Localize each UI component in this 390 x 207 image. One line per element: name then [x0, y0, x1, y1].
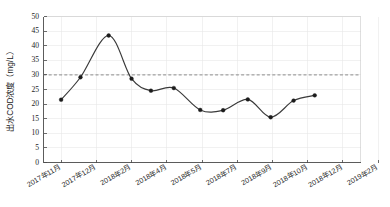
- data-point-marker: 17.9: [221, 108, 225, 112]
- y-axis-title-text: 出水COD浓度（mg/L）: [5, 47, 15, 131]
- y-tick-label: 5: [35, 143, 39, 152]
- data-point-marker: 28.7: [130, 77, 134, 81]
- y-tick-label: 50: [31, 12, 39, 21]
- data-point-marker: 43.5: [107, 34, 111, 38]
- data-point-marker: 21.5: [59, 98, 63, 102]
- y-tick-label: 45: [31, 26, 39, 35]
- line-chart: 21.529.243.528.724.625.51817.921.615.521…: [0, 0, 390, 207]
- y-tick-label: 10: [31, 128, 39, 137]
- y-tick-label: 0: [35, 158, 39, 167]
- data-point-marker: 18: [198, 108, 202, 112]
- y-tick-label: 30: [31, 70, 39, 79]
- y-axis-title: 出水COD浓度（mg/L）: [5, 47, 15, 131]
- y-tick-label: 20: [31, 99, 39, 108]
- chart-container: 21.529.243.528.724.625.51817.921.615.521…: [0, 0, 390, 207]
- data-point-marker: 15.5: [269, 115, 273, 119]
- data-point-marker: 23: [313, 93, 317, 97]
- data-point-marker: 25.5: [172, 86, 176, 90]
- y-tick-label: 35: [31, 55, 39, 64]
- y-tick-label: 15: [31, 114, 39, 123]
- data-point-marker: 21.2: [292, 99, 296, 103]
- data-point-marker: 21.6: [246, 98, 250, 102]
- y-tick-label: 40: [31, 41, 39, 50]
- data-point-marker: 29.2: [79, 75, 83, 79]
- data-point-marker: 24.6: [149, 89, 153, 93]
- y-tick-label: 25: [31, 85, 39, 94]
